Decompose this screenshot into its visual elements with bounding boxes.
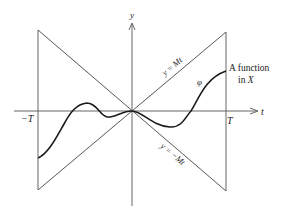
curve-label-phi: φ (197, 77, 202, 87)
y-axis (129, 23, 135, 206)
function-space-diagram: y t −T T y = Mt y = −Mt φ A function in … (0, 0, 287, 214)
annotation-prefix: in (238, 75, 248, 85)
y-axis-label: y (129, 10, 134, 20)
t-axis-label: t (261, 106, 264, 117)
annotation-line-1: A function (229, 63, 270, 73)
tick-label-neg-t: −T (21, 113, 35, 124)
label-y-equals-mt: y = Mt (159, 55, 184, 79)
tick-label-t: T (227, 115, 234, 126)
annotation-var-x: X (247, 75, 255, 85)
annotation-line-2: in X (238, 75, 255, 85)
t-axis (14, 108, 258, 114)
